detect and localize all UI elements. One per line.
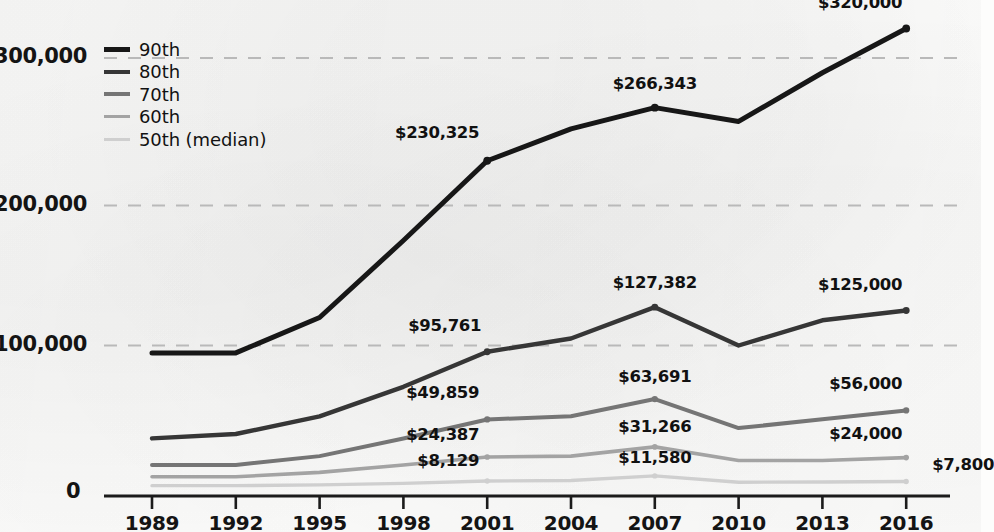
data-point-marker <box>483 157 491 165</box>
legend-swatch-icon <box>104 92 130 96</box>
legend-swatch-icon <box>104 47 130 52</box>
data-point-marker <box>652 473 657 478</box>
x-axis-tick-label: 2010 <box>711 511 765 532</box>
data-point-value-label: $63,691 <box>618 367 691 386</box>
data-point-marker <box>903 307 910 314</box>
x-axis-tick-label: 1995 <box>292 511 346 532</box>
data-point-marker <box>652 396 658 402</box>
data-point-value-label: $49,859 <box>406 383 479 402</box>
data-point-value-label: $11,580 <box>618 448 691 467</box>
data-point-marker <box>903 407 909 413</box>
data-point-marker <box>904 479 909 484</box>
x-axis-tick-label: 1998 <box>376 511 430 532</box>
legend-item-label: 50th (median) <box>139 129 266 150</box>
data-point-marker <box>484 416 490 422</box>
chart-legend: 90th80th70th60th50th (median) <box>104 38 266 151</box>
data-point-value-label: $24,387 <box>406 425 479 444</box>
data-point-value-label: $125,000 <box>818 275 902 294</box>
legend-item-80th[interactable]: 80th <box>104 61 266 84</box>
data-point-value-label: $56,000 <box>829 374 902 393</box>
data-point-marker <box>485 478 490 483</box>
data-point-marker <box>484 454 490 460</box>
data-point-value-label: $8,129 <box>417 451 479 470</box>
legend-item-60th[interactable]: 60th <box>104 106 266 129</box>
legend-item-label: 60th <box>139 106 180 127</box>
legend-swatch-icon <box>104 115 130 118</box>
data-point-value-label: $127,382 <box>613 273 697 292</box>
data-point-value-label: $266,343 <box>613 74 697 93</box>
x-axis-tick-label: 2013 <box>795 511 849 532</box>
legend-item-label: 70th <box>139 84 180 105</box>
y-axis-tick-label: 200,000 <box>0 192 87 216</box>
data-point-value-label: $24,000 <box>829 424 902 443</box>
axis-group <box>104 496 950 509</box>
data-point-marker <box>902 25 910 33</box>
x-axis-tick-label: 1992 <box>209 511 263 532</box>
x-axis-tick-label: 2001 <box>460 511 514 532</box>
data-point-marker <box>651 104 659 112</box>
legend-item-label: 90th <box>139 39 180 60</box>
x-axis-tick-label: 2004 <box>544 511 598 532</box>
y-axis-tick-label: 300,000 <box>0 44 87 68</box>
x-axis-tick-label: 2016 <box>879 511 933 532</box>
series-line-50th <box>152 476 906 486</box>
data-point-marker <box>484 348 491 355</box>
legend-item-70th[interactable]: 70th <box>104 83 266 106</box>
y-axis-tick-label: 0 <box>66 479 80 503</box>
legend-swatch-icon <box>104 138 130 141</box>
x-axis-tick-label: 2007 <box>628 511 682 532</box>
data-point-marker <box>651 304 658 311</box>
data-point-marker <box>903 455 909 461</box>
legend-item-50th[interactable]: 50th (median) <box>104 128 266 151</box>
data-point-value-label: $95,761 <box>408 316 481 335</box>
legend-item-label: 80th <box>139 61 180 82</box>
y-axis-tick-label: 100,000 <box>0 332 87 356</box>
x-axis-tick-label: 1989 <box>125 511 179 532</box>
legend-item-90th[interactable]: 90th <box>104 38 266 61</box>
data-point-value-label: $230,325 <box>395 123 479 142</box>
data-point-value-label: $320,000 <box>818 0 902 12</box>
legend-swatch-icon <box>104 70 130 74</box>
data-point-value-label: $31,266 <box>618 417 691 436</box>
data-point-value-label: $7,800 <box>932 455 994 474</box>
